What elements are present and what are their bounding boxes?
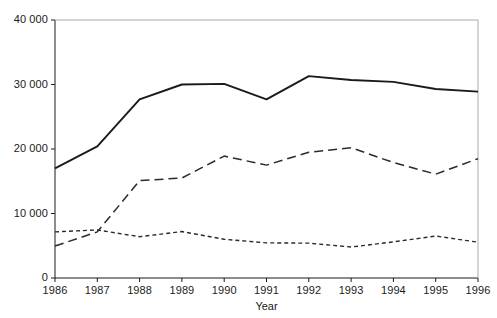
y-tick-label: 40 000 — [14, 13, 48, 25]
data-series-group — [55, 76, 478, 247]
axis-lines — [55, 20, 478, 278]
x-tick-label: 1991 — [247, 284, 287, 296]
x-tick-label: 1986 — [35, 284, 75, 296]
series-line-long-dashed-series — [55, 148, 478, 246]
x-tick-label: 1994 — [373, 284, 413, 296]
x-tick-label: 1988 — [120, 284, 160, 296]
series-line-solid-series — [55, 76, 478, 168]
y-tick-label: 30 000 — [14, 78, 48, 90]
chart-plot-area — [0, 0, 497, 318]
y-tick-label: 20 000 — [14, 142, 48, 154]
x-tick-label: 1990 — [204, 284, 244, 296]
x-tick-label: 1989 — [162, 284, 202, 296]
x-axis-title: Year — [207, 300, 327, 312]
x-tick-label: 1993 — [331, 284, 371, 296]
x-tick-label: 1992 — [289, 284, 329, 296]
y-axis-ticks — [51, 20, 55, 278]
y-tick-label: 0 — [42, 271, 48, 283]
x-axis-ticks — [55, 278, 478, 282]
chart-container: 010 00020 00030 00040 000 19861987198819… — [0, 0, 497, 318]
series-line-short-dashed-series — [55, 230, 478, 247]
x-tick-label: 1996 — [458, 284, 497, 296]
x-tick-label: 1987 — [77, 284, 117, 296]
y-tick-label: 10 000 — [14, 207, 48, 219]
x-tick-label: 1995 — [416, 284, 456, 296]
